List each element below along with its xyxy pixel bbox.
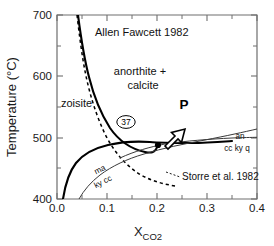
y-tick-label-400: 400	[33, 193, 52, 205]
annotation-zoisite: zoisite	[61, 97, 92, 109]
pressure-arrow-label: P	[179, 97, 188, 112]
reaction-number-text: 37	[121, 117, 131, 127]
annotation-cc-ky-q: cc ky q	[224, 144, 250, 153]
x-axis-title-sub2: 2	[157, 231, 162, 242]
x-axis-title-sub: CO	[143, 231, 157, 242]
x-tick-label-3: 0.3	[199, 202, 215, 214]
annotation-storre: Storre et al. 1982	[182, 171, 259, 182]
phase-diagram-figure: 0.0 0.1 0.2 0.3 0.4 700 600 500 400 Temp…	[0, 0, 274, 246]
annotation-an: an	[235, 132, 245, 141]
annotation-allen-fawcett: Allen Fawcett 1982	[95, 26, 189, 38]
x-tick-label-1: 0.1	[99, 202, 115, 214]
y-axis-title: Temperature (°C)	[4, 57, 19, 157]
invariant-point-marker	[155, 142, 161, 148]
reaction-number-badge: 37	[117, 116, 135, 129]
annotation-calcite: calcite	[127, 79, 158, 91]
y-tick-label-700: 700	[33, 9, 52, 21]
y-tick-label-500: 500	[33, 132, 52, 144]
x-tick-label-2: 0.2	[149, 202, 165, 214]
x-tick-label-4: 0.4	[249, 202, 266, 214]
y-tick-label-600: 600	[33, 70, 52, 82]
y-axis-title-group: Temperature (°C)	[4, 57, 19, 157]
chart-svg: 0.0 0.1 0.2 0.3 0.4 700 600 500 400 Temp…	[0, 0, 274, 246]
annotation-anorthite: anorthite +	[114, 65, 166, 77]
x-axis-title-base: X	[134, 224, 143, 239]
